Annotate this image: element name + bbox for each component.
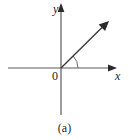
terminal-side-ray [61, 27, 103, 69]
origin-label: 0 [52, 70, 58, 82]
y-axis-label: y [53, 3, 58, 15]
angle-arc [73, 56, 78, 68]
figure-container: y x 0 (a) [0, 0, 129, 140]
y-axis-arrowhead [58, 3, 65, 12]
coordinate-diagram [0, 0, 129, 140]
x-axis-label: x [115, 70, 120, 82]
figure-caption: (a) [0, 121, 129, 135]
